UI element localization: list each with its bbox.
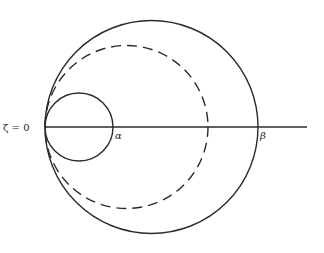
alpha-label: α bbox=[115, 131, 122, 141]
origin-label: ζ = 0 bbox=[3, 123, 30, 133]
beta-label: β bbox=[260, 131, 266, 141]
diagram-canvas bbox=[0, 0, 324, 253]
